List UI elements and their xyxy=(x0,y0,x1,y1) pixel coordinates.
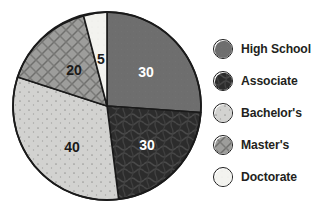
pie-chart-figure: 30 30 40 20 5 High School Associate xyxy=(0,0,325,220)
legend-swatch-bachelors xyxy=(213,103,233,123)
legend-swatch-high-school xyxy=(213,39,233,59)
pie-chart-plot-area: 30 30 40 20 5 xyxy=(0,0,214,220)
slice-value-bachelors: 40 xyxy=(64,139,80,155)
legend-label-doctorate: Doctorate xyxy=(241,171,297,183)
legend-swatch-masters xyxy=(213,135,233,155)
pie-chart-svg: 30 30 40 20 5 xyxy=(0,0,214,220)
legend-label-high-school: High School xyxy=(241,43,311,55)
slice-value-masters: 20 xyxy=(66,62,82,78)
slice-value-high-school: 30 xyxy=(138,64,154,80)
legend-item-high-school[interactable]: High School xyxy=(213,34,311,64)
chart-legend: High School Associate Bachelor's xyxy=(213,34,325,194)
legend-item-masters[interactable]: Master's xyxy=(213,130,289,160)
pie-slice-high-school[interactable] xyxy=(107,12,201,113)
legend-label-associate: Associate xyxy=(241,75,298,87)
legend-item-bachelors[interactable]: Bachelor's xyxy=(213,98,302,128)
legend-swatch-doctorate xyxy=(213,167,233,187)
legend-label-bachelors: Bachelor's xyxy=(241,107,302,119)
slice-value-associate: 30 xyxy=(139,137,155,153)
legend-label-masters: Master's xyxy=(241,139,289,151)
legend-swatch-associate xyxy=(213,71,233,91)
legend-item-doctorate[interactable]: Doctorate xyxy=(213,162,297,192)
legend-item-associate[interactable]: Associate xyxy=(213,66,298,96)
slice-value-doctorate: 5 xyxy=(97,51,105,67)
